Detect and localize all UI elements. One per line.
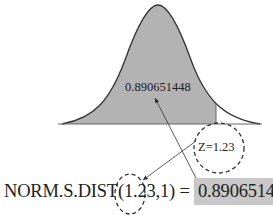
z-score-label: Z=1.23 [198,140,235,155]
area-value-label: 0.890651448 [125,80,191,95]
formula: NORM.S.DIST(1.23,1) = 0.890651448 [4,181,273,202]
formula-result: 0.890651448 [194,178,273,205]
formula-arg-z: 1.23 [124,181,156,201]
formula-function: NORM.S.DIST( [4,181,124,201]
formula-equals: = [175,181,194,201]
formula-arg-cumulative: 1 [160,181,169,201]
arrow-z-to-arg [143,141,196,180]
